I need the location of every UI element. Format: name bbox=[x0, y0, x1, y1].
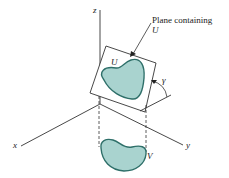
plane-caption-line2: U bbox=[152, 26, 159, 35]
region-v-label: V bbox=[147, 152, 153, 161]
y-axis-label: y bbox=[186, 141, 190, 150]
projection-diagram: z Plane containing U U γ x y V bbox=[0, 0, 229, 178]
plane-pointer-line bbox=[133, 23, 151, 54]
diagram-canvas bbox=[0, 0, 229, 178]
region-v-blob bbox=[101, 139, 146, 171]
region-u-label: U bbox=[111, 58, 118, 67]
angle-gamma-label: γ bbox=[162, 76, 166, 85]
plane-caption-line1: Plane containing bbox=[152, 16, 212, 25]
x-axis bbox=[21, 104, 100, 146]
z-axis-label: z bbox=[93, 6, 97, 15]
x-axis-label: x bbox=[13, 141, 17, 150]
